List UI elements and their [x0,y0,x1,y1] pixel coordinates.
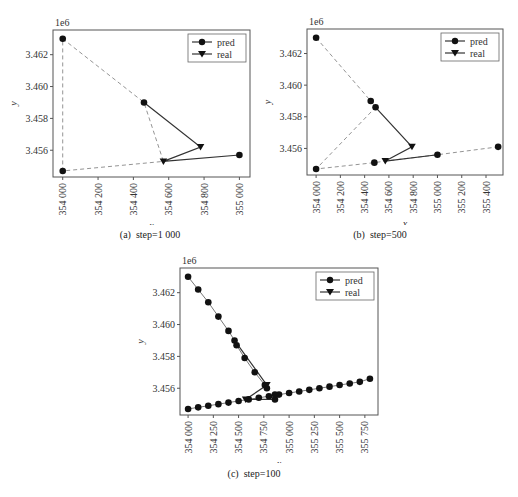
real-marker [408,144,416,151]
pred-marker [367,375,374,382]
x-axis-label: x [148,220,154,225]
pred-marker [225,328,232,335]
pred-marker [316,385,323,392]
legend-real-label: real [217,49,232,60]
chart-a-plot: 1e63.4563.4583.4603.462354 000354 200354… [0,0,260,225]
chart-b-plot: 1e63.4563.4583.4603.462354 000354 200354… [258,0,518,225]
x-tick-label: 354 400 [359,181,370,214]
pred-marker [313,166,320,173]
y-tick-label: 3.460 [280,80,303,91]
chart-c-caption: (c) step=100 [128,468,380,479]
pred-marker [225,399,232,406]
x-tick-label: 354 000 [311,181,322,214]
y-offset-label: 1e6 [309,16,323,27]
pred-marker [205,402,212,409]
pred-marker [185,273,192,280]
chart-c: 1e63.4563.4583.4603.462354 000354 250354… [128,238,388,497]
series-real-line [144,102,239,161]
legend-pred-label: pred [345,275,363,286]
x-axis-label: x [402,218,408,225]
x-tick-label: 354 400 [128,183,139,216]
y-tick-label: 3.456 [26,145,49,156]
x-tick-label: 355 000 [234,183,245,216]
x-tick-label: 355 750 [359,421,370,454]
x-tick-label: 354 200 [93,183,104,216]
y-offset-label: 1e6 [182,255,196,266]
pred-marker [59,35,66,42]
legend-pred-label: pred [217,37,235,48]
x-tick-label: 354 250 [208,421,219,454]
y-tick-label: 3.458 [153,351,176,362]
y-tick-label: 3.460 [26,81,49,92]
x-tick-label: 354 600 [383,181,394,214]
pred-marker [215,313,222,320]
legend-pred-marker-icon [327,277,333,283]
pred-marker [233,342,240,349]
series-pred-line [63,39,164,171]
legend-pred-marker-icon [452,38,458,44]
pred-marker [195,404,202,411]
y-tick-label: 3.456 [280,143,303,154]
pred-marker [141,99,148,106]
y-tick-label: 3.460 [153,319,176,330]
x-tick-label: 355 000 [432,181,443,214]
x-tick-label: 355 400 [481,181,492,214]
pred-marker [357,379,364,386]
pred-marker [313,34,320,41]
pred-marker [326,383,333,390]
pred-marker [286,390,293,397]
x-tick-label: 354 600 [163,183,174,216]
pred-marker [495,144,502,151]
y-axis-label: y [135,339,146,345]
pred-marker [434,151,441,158]
y-tick-label: 3.458 [26,113,49,124]
x-tick-label: 354 750 [258,421,269,454]
legend-pred-label: pred [470,36,488,47]
x-tick-label: 355 250 [309,421,320,454]
y-offset-label: 1e6 [55,17,69,28]
y-tick-label: 3.462 [26,49,49,60]
x-tick-label: 354 800 [408,181,419,214]
pred-marker [205,299,212,306]
y-axis-label: y [262,99,273,105]
pred-marker [346,380,353,387]
x-tick-label: 354 200 [335,181,346,214]
chart-a: 1e63.4563.4583.4603.462354 000354 200354… [0,0,260,245]
pred-marker [241,355,248,362]
y-tick-label: 3.462 [153,287,176,298]
pred-marker [59,168,66,175]
pred-marker [185,406,192,413]
pred-marker [272,391,279,398]
pred-marker [251,369,258,376]
pred-marker [195,286,202,293]
x-tick-label: 354 500 [233,421,244,454]
series-real-line [376,107,438,161]
pred-marker [296,388,303,395]
legend-pred-marker-icon [199,39,205,45]
pred-marker [367,98,374,105]
chart-b: 1e63.4563.4583.4603.462354 000354 200354… [258,0,518,245]
y-tick-label: 3.458 [280,111,303,122]
x-tick-label: 355 000 [284,421,295,454]
pred-marker [266,393,273,400]
pred-marker [236,152,243,159]
pred-marker [372,104,379,111]
chart-c-plot: 1e63.4563.4583.4603.462354 000354 250354… [128,238,388,463]
legend-real-label: real [470,48,485,59]
y-tick-label: 3.456 [153,383,176,394]
x-tick-label: 354 000 [183,421,194,454]
x-tick-label: 354 000 [57,183,68,216]
pred-marker [336,382,343,389]
x-tick-label: 354 800 [199,183,210,216]
x-tick-label: 355 500 [334,421,345,454]
real-marker [197,144,205,151]
x-tick-label: 355 200 [456,181,467,214]
y-axis-label: y [8,101,19,107]
x-axis-label: x [276,458,282,463]
y-tick-label: 3.462 [280,48,303,59]
pred-marker [235,398,242,405]
pred-marker [215,401,222,408]
pred-marker [255,394,262,401]
legend-real-label: real [345,287,360,298]
pred-marker [306,387,313,394]
